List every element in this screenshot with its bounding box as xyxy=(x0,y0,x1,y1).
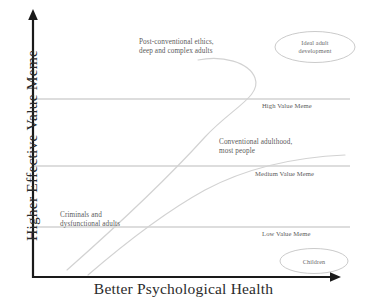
y-axis-arrowhead xyxy=(28,9,38,20)
callout-ideal-line2: development xyxy=(275,47,355,55)
annotation-criminals-line2: dysfunctional adults xyxy=(60,220,120,229)
annotation-conventional-adulthood: Conventional adulthood, most people xyxy=(219,138,292,156)
annotation-post-conventional: Post-conventional ethics, deep and compl… xyxy=(139,38,214,56)
x-axis-title: Better Psychological Health xyxy=(0,280,367,298)
callout-children: Children xyxy=(274,258,354,266)
chart-canvas: Higher Effective Value Meme Better Psych… xyxy=(0,0,367,302)
y-axis-title: Higher Effective Value Meme xyxy=(23,51,41,241)
annotation-post-conventional-line1: Post-conventional ethics, xyxy=(139,38,214,47)
gridline-label-high: High Value Meme xyxy=(262,102,312,110)
curve-backward-bending xyxy=(67,58,256,270)
gridline-label-medium: Medium Value Meme xyxy=(255,170,314,178)
annotation-conventional-line1: Conventional adulthood, xyxy=(219,138,292,147)
gridline-label-low: Low Value Meme xyxy=(262,230,311,238)
annotation-conventional-line2: most people xyxy=(219,147,292,156)
callout-ideal-adult-development: Ideal adult development xyxy=(275,39,355,54)
annotation-post-conventional-line2: deep and complex adults xyxy=(139,47,214,56)
annotation-criminals-line1: Criminals and xyxy=(60,211,120,220)
callout-ideal-line1: Ideal adult xyxy=(275,39,355,47)
annotation-criminals: Criminals and dysfunctional adults xyxy=(60,211,120,229)
